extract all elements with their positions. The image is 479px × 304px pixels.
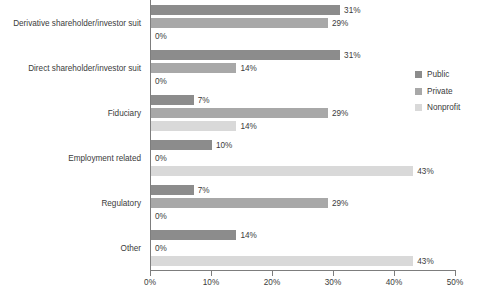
bar-private[interactable] [151, 198, 328, 208]
bar-row: 7% [151, 185, 456, 195]
bar-group: 31%29%0% [150, 0, 455, 45]
x-axis-tick-label: 0% [144, 278, 156, 287]
category-label: Fiduciary [108, 108, 141, 117]
legend: PublicPrivateNonprofit [415, 70, 460, 120]
category-label: Other [121, 244, 141, 253]
bar-value-label: 43% [413, 167, 433, 176]
legend-label: Private [427, 87, 452, 96]
x-axis-tick [211, 271, 212, 276]
bar-value-label: 29% [328, 18, 348, 27]
bar-value-label: 7% [194, 95, 210, 104]
bar-public[interactable] [151, 5, 340, 15]
x-axis-tick-label: 50% [447, 278, 463, 287]
bar-row: 14% [151, 121, 456, 131]
bar-value-label: 0% [151, 244, 167, 253]
bar-value-label: 31% [340, 50, 360, 59]
category-label: Derivative shareholder/investor suit [13, 18, 141, 27]
bar-row: 29% [151, 108, 456, 118]
bar-public[interactable] [151, 230, 236, 240]
bar-row: 31% [151, 50, 456, 60]
bar-value-label: 0% [151, 31, 167, 40]
legend-item-nonprofit[interactable]: Nonprofit [415, 103, 460, 112]
legend-label: Nonprofit [427, 103, 460, 112]
bar-row: 0% [151, 211, 456, 221]
bar-row: 0% [151, 153, 456, 163]
bar-value-label: 43% [413, 257, 433, 266]
x-axis-tick-label: 20% [264, 278, 280, 287]
x-axis-tick-label: 40% [386, 278, 402, 287]
bar-row: 29% [151, 198, 456, 208]
bar-row: 43% [151, 256, 456, 266]
bar-row: 14% [151, 63, 456, 73]
bar-row: 7% [151, 95, 456, 105]
bar-row: 0% [151, 243, 456, 253]
legend-label: Public [427, 70, 449, 79]
plot-area: 31%29%0%31%14%0%7%29%14%10%0%43%7%29%0%1… [150, 0, 455, 271]
legend-item-public[interactable]: Public [415, 70, 460, 79]
bar-private[interactable] [151, 108, 328, 118]
x-axis-tick [333, 271, 334, 276]
x-axis-tick-label: 30% [325, 278, 341, 287]
bar-row: 14% [151, 230, 456, 240]
bar-value-label: 29% [328, 108, 348, 117]
bar-group: 10%0%43% [150, 136, 455, 181]
bar-value-label: 14% [236, 63, 256, 72]
bar-value-label: 0% [151, 212, 167, 221]
category-label: Direct shareholder/investor suit [28, 63, 141, 72]
bar-group: 7%29%0% [150, 181, 455, 226]
bar-value-label: 31% [340, 5, 360, 14]
bar-nonprofit[interactable] [151, 256, 413, 266]
legend-item-private[interactable]: Private [415, 87, 460, 96]
x-axis-tick-label: 10% [203, 278, 219, 287]
bar-row: 0% [151, 31, 456, 41]
bar-value-label: 14% [236, 231, 256, 240]
x-axis-tick [394, 271, 395, 276]
category-label: Employment related [68, 154, 141, 163]
bar-value-label: 0% [151, 154, 167, 163]
bar-public[interactable] [151, 50, 340, 60]
bar-row: 10% [151, 140, 456, 150]
bar-public[interactable] [151, 95, 194, 105]
bar-public[interactable] [151, 185, 194, 195]
bar-chart: Derivative shareholder/investor suitDire… [0, 0, 479, 304]
bar-nonprofit[interactable] [151, 166, 413, 176]
category-axis-labels: Derivative shareholder/investor suitDire… [0, 0, 147, 271]
bar-value-label: 10% [212, 141, 232, 150]
x-axis-tick [455, 271, 456, 276]
legend-swatch-icon [415, 71, 422, 78]
bar-row: 29% [151, 18, 456, 28]
bar-group: 14%0%43% [150, 226, 455, 271]
x-axis-tick [272, 271, 273, 276]
x-axis-tick [150, 271, 151, 276]
category-label: Regulatory [101, 199, 141, 208]
bar-row: 31% [151, 5, 456, 15]
bar-public[interactable] [151, 140, 212, 150]
bar-group: 7%29%14% [150, 90, 455, 135]
bar-value-label: 7% [194, 186, 210, 195]
legend-swatch-icon [415, 104, 422, 111]
bar-value-label: 29% [328, 199, 348, 208]
legend-swatch-icon [415, 88, 422, 95]
bar-private[interactable] [151, 63, 236, 73]
x-axis: 0%10%20%30%40%50% [150, 271, 456, 304]
bar-private[interactable] [151, 18, 328, 28]
bar-row: 0% [151, 76, 456, 86]
bar-row: 43% [151, 166, 456, 176]
bar-value-label: 14% [236, 121, 256, 130]
bar-group: 31%14%0% [150, 45, 455, 90]
bar-value-label: 0% [151, 76, 167, 85]
bar-nonprofit[interactable] [151, 121, 236, 131]
